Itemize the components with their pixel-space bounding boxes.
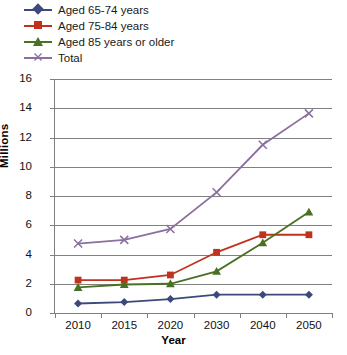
x-tick-mark <box>240 313 241 318</box>
data-point <box>120 298 128 306</box>
y-tick-label: 6 <box>0 218 32 230</box>
data-point <box>306 231 313 238</box>
y-tick-label: 16 <box>0 72 32 84</box>
y-tick-label: 10 <box>0 160 32 172</box>
x-tick-mark <box>286 313 287 318</box>
y-tick-label: 2 <box>0 277 32 289</box>
legend-marker-x-icon <box>24 50 52 66</box>
y-tick-label: 0 <box>0 306 32 318</box>
legend-marker-diamond-icon <box>24 2 52 18</box>
data-point <box>305 291 313 299</box>
legend-item-3[interactable]: Total <box>24 50 244 66</box>
x-axis-title: Year <box>0 334 347 346</box>
chart-legend: Aged 65-74 years Aged 75-84 years Aged 8… <box>24 2 244 66</box>
legend-item-2[interactable]: Aged 85 years or older <box>24 34 244 50</box>
series-line <box>78 212 309 287</box>
y-tick-label: 12 <box>0 131 32 143</box>
legend-symbol <box>34 21 42 29</box>
legend-label-1: Aged 75-84 years <box>52 18 149 34</box>
series-line <box>78 295 309 304</box>
legend-marker-square-icon <box>24 18 52 34</box>
legend-symbol <box>33 37 43 46</box>
data-point <box>305 208 314 216</box>
x-tick-mark <box>101 313 102 318</box>
data-point <box>213 249 220 256</box>
legend-symbol <box>34 53 42 61</box>
legend-label-0: Aged 65-74 years <box>52 2 149 18</box>
data-point <box>305 109 313 117</box>
legend-symbol <box>32 3 43 14</box>
x-tick-mark <box>55 313 56 318</box>
data-point <box>167 272 174 279</box>
y-tick-label: 14 <box>0 101 32 113</box>
series-lines <box>55 79 332 313</box>
legend-label-2: Aged 85 years or older <box>52 34 174 50</box>
data-point <box>258 238 267 246</box>
data-point <box>74 299 82 307</box>
data-point <box>259 231 266 238</box>
data-point <box>213 291 221 299</box>
data-point <box>166 295 174 303</box>
data-point <box>259 141 267 149</box>
legend-item-0[interactable]: Aged 65-74 years <box>24 2 244 18</box>
x-tick-mark <box>332 313 333 318</box>
x-tick-mark <box>147 313 148 318</box>
plot-area: 0246810121416 201020152020203020402050 <box>54 79 332 314</box>
x-tick-mark <box>194 313 195 318</box>
legend-label-3: Total <box>52 50 82 66</box>
legend-item-1[interactable]: Aged 75-84 years <box>24 18 244 34</box>
x-tick-label: 2050 <box>279 319 339 331</box>
data-point <box>213 188 221 196</box>
data-point <box>259 291 267 299</box>
y-tick-label: 4 <box>0 248 32 260</box>
legend-marker-triangle-icon <box>24 34 52 50</box>
y-tick-label: 8 <box>0 189 32 201</box>
line-chart: Aged 65-74 years Aged 75-84 years Aged 8… <box>0 0 347 355</box>
data-point <box>75 277 82 284</box>
data-point <box>212 267 221 275</box>
series-line <box>78 113 309 243</box>
